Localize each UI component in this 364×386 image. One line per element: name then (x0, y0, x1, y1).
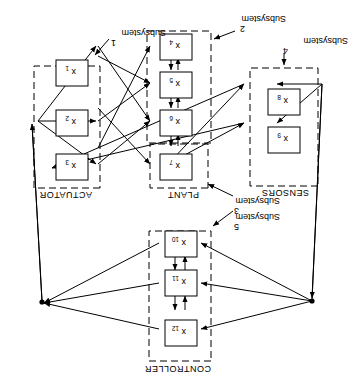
edge-fan-left-to-x12 (201, 301, 312, 329)
node-label-x11: x (181, 277, 186, 287)
edge-x3-to-x4 (98, 46, 150, 148)
edge-x12-to-fan-right (44, 303, 159, 329)
node-sub-x10: 10 (171, 236, 179, 243)
diagram-canvas: x 12 x 11 x 10 x 7 x 6 x 5 x 4 x 9 x 8 x… (0, 0, 364, 386)
callout-subsystem-5-line1: Subsystem (235, 212, 280, 222)
callout-subsystem-1-line2: 1 (111, 38, 116, 48)
edge-x1-to-x6 (98, 46, 150, 121)
edge-x10-to-fan-right (44, 243, 159, 303)
callout-subsystem-3-line1: Subsystem (235, 196, 280, 206)
leader-subsystem-3 (208, 184, 233, 196)
node-label-x2: x (71, 117, 76, 127)
node-label-x8: x (283, 96, 288, 106)
bus-left-riser (312, 84, 322, 301)
node-label-x5: x (175, 79, 180, 89)
callout-subsystem-2-line1: Subsystem (241, 14, 286, 24)
group-title-actuator: ACTUATOR (39, 190, 92, 200)
edge-x3-to-x6 (98, 121, 150, 164)
node-label-x10: x (181, 238, 186, 248)
leader-subsystem-2 (214, 31, 235, 39)
junction-right (39, 299, 44, 304)
edge-x11-to-fan-right (44, 283, 159, 303)
edge-x1-to-x5 (98, 56, 150, 83)
leader-subsystem-5 (213, 211, 233, 226)
node-sub-x8: 8 (277, 94, 281, 101)
group-title-plant: PLANT (167, 190, 199, 200)
node-label-x12: x (181, 327, 186, 337)
node-sub-x1: 1 (65, 65, 69, 72)
group-title-controller: CONTROLLER (144, 364, 211, 374)
node-sub-x12: 12 (171, 325, 179, 332)
callout-subsystem-5-line2: 5 (234, 222, 239, 232)
node-label-x6: x (175, 117, 180, 127)
edge-x2-to-x5 (98, 83, 150, 121)
junction-left (309, 298, 314, 303)
callout-subsystem-3-line2: 3 (234, 206, 239, 216)
node-label-x3: x (71, 161, 76, 171)
callout-subsystem-1-line1: Subsystem (121, 28, 166, 38)
node-sub-x11: 11 (172, 275, 179, 282)
rotated-figure: x 12 x 11 x 10 x 7 x 6 x 5 x 4 x 9 x 8 x… (0, 0, 364, 386)
node-sub-x4: 4 (169, 39, 173, 46)
node-sub-x3: 3 (65, 159, 69, 166)
node-sub-x2: 2 (65, 115, 69, 122)
callout-subsystem-4-line1: Subsystem (303, 36, 348, 46)
node-label-x9: x (283, 134, 288, 144)
node-sub-x5: 5 (169, 77, 173, 84)
node-sub-x9: 9 (277, 132, 281, 139)
node-label-x4: x (175, 41, 180, 51)
node-sub-x6: 6 (169, 115, 173, 122)
junction-layer (39, 298, 314, 304)
node-label-x1: x (71, 67, 76, 77)
block-diagram-svg: x 12 x 11 x 10 x 7 x 6 x 5 x 4 x 9 x 8 x… (0, 0, 364, 386)
node-sub-x7: 7 (169, 159, 173, 166)
callout-subsystem-2-line2: 2 (240, 24, 245, 34)
callout-subsystem-4-line2: 4 (283, 46, 288, 56)
node-label-x7: x (175, 161, 180, 171)
